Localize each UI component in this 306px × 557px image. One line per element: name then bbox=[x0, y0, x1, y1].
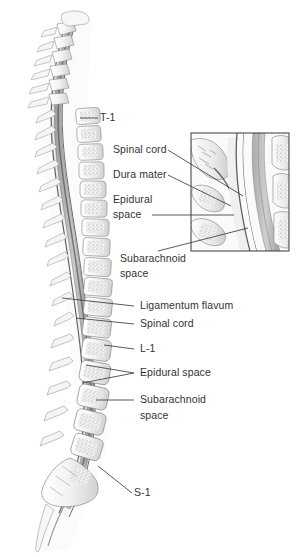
leader-s1 bbox=[98, 466, 132, 493]
label-epidural-space-inset-line2: space bbox=[113, 209, 142, 221]
label-subarachnoid-space-inset-line1: Subarachnoid bbox=[120, 253, 186, 265]
label-subarachnoid-space-lower-line2: space bbox=[140, 410, 169, 422]
inset-anterior-bodies bbox=[272, 136, 294, 249]
label-ligamentum-flavum: Ligamentum flavum bbox=[140, 300, 233, 312]
label-spinal-cord-inset: Spinal cord bbox=[113, 144, 167, 156]
label-dura-mater: Dura mater bbox=[113, 169, 167, 181]
label-l1: L-1 bbox=[140, 343, 155, 355]
lumbar-spinous-processes bbox=[40, 334, 74, 446]
label-subarachnoid-space-lower-line1: Subarachnoid bbox=[140, 394, 206, 406]
inset-detail-group bbox=[191, 133, 294, 251]
label-epidural-space-inset-line1: Epidural bbox=[113, 194, 152, 206]
label-epidural-space-lower: Epidural space bbox=[140, 367, 211, 379]
spine-illustration-canvas bbox=[0, 0, 306, 557]
label-s1: S-1 bbox=[134, 487, 151, 499]
occiput-region bbox=[61, 11, 89, 26]
inset-contents bbox=[191, 133, 294, 251]
label-t1: T-1 bbox=[100, 112, 115, 124]
spine-anatomy-figure: T-1 Spinal cord Dura mater Epidural spac… bbox=[0, 0, 306, 557]
label-spinal-cord-lower: Spinal cord bbox=[140, 318, 194, 330]
vertebral-column-group bbox=[28, 11, 113, 552]
label-subarachnoid-space-inset-line2: space bbox=[120, 268, 149, 280]
